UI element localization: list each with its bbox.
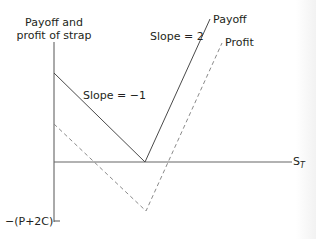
slope-left-label: Slope = −1: [83, 89, 146, 102]
x-axis-label: ST: [293, 155, 305, 169]
x-axis-label-main: S: [293, 155, 300, 168]
slope-right-label: Slope = 2: [150, 30, 204, 43]
payoff-label: Payoff: [213, 13, 247, 26]
x-axis-label-subscript: T: [300, 161, 305, 170]
profit-line: [54, 43, 222, 211]
y-axis-title: Payoff and profit of strap: [14, 16, 94, 42]
profit-label: Profit: [225, 36, 254, 49]
title-line-2: profit of strap: [14, 29, 94, 42]
y-min-label: −(P+2C): [5, 215, 53, 228]
title-line-1: Payoff and: [14, 16, 94, 29]
